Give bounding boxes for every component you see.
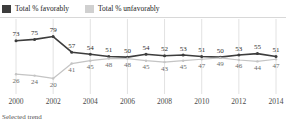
x-tick-label-2004: 2004 — [83, 97, 98, 106]
data-label: 43 — [161, 65, 169, 73]
data-point — [145, 53, 148, 56]
data-point — [71, 62, 73, 64]
x-axis: 20002002200420062008201020122014 — [0, 94, 286, 112]
data-label: 57 — [68, 42, 76, 50]
data-label: 75 — [31, 29, 39, 37]
data-point — [237, 54, 240, 57]
data-point — [15, 39, 18, 42]
data-point — [145, 59, 147, 61]
data-point — [126, 57, 128, 59]
data-label: 47 — [273, 62, 281, 70]
legend-item-unfavorable: Total % unfavorably — [85, 5, 160, 13]
footer-note: Selected trend — [2, 113, 42, 121]
data-point — [256, 60, 258, 62]
legend-label-unfavorable: Total % unfavorably — [98, 5, 160, 13]
data-label: 45 — [180, 63, 188, 71]
data-label: 47 — [198, 62, 206, 70]
data-point — [89, 59, 91, 61]
data-label: 79 — [50, 26, 58, 34]
x-tick-label-2008: 2008 — [157, 97, 172, 106]
data-point — [108, 57, 110, 59]
data-label: 53 — [180, 45, 188, 53]
data-point — [182, 59, 184, 61]
data-point — [163, 54, 166, 57]
data-label: 52 — [161, 45, 169, 53]
data-point — [33, 74, 35, 76]
data-point — [238, 59, 240, 61]
square-swatch-icon — [2, 5, 11, 13]
data-label: 20 — [50, 81, 58, 89]
x-tick-label-2000: 2000 — [9, 97, 24, 106]
data-point — [200, 55, 203, 58]
data-point — [182, 54, 185, 57]
data-label: 45 — [87, 63, 95, 71]
data-label: 26 — [13, 77, 21, 85]
data-label: 41 — [68, 66, 76, 74]
data-point — [201, 58, 203, 60]
plot-area: 7375795754515054525351505355512624204145… — [0, 19, 286, 94]
data-label: 50 — [217, 47, 225, 55]
favorability-trend-chart: Total % favorably Total % unfavorably 73… — [0, 0, 286, 129]
x-tick-label-2010: 2010 — [194, 97, 209, 106]
data-label: 46 — [235, 62, 243, 70]
data-point — [70, 51, 73, 54]
x-tick-label-2002: 2002 — [46, 97, 61, 106]
data-label: 24 — [31, 78, 39, 86]
data-label: 51 — [198, 46, 206, 54]
data-label: 54 — [143, 44, 151, 52]
data-label: 48 — [105, 61, 113, 69]
data-point — [275, 55, 278, 58]
data-label: 54 — [87, 44, 95, 52]
data-label: 73 — [13, 30, 21, 38]
x-tick-label-2012: 2012 — [231, 97, 246, 106]
data-label: 50 — [124, 47, 132, 55]
x-tick-label-2014: 2014 — [269, 97, 284, 106]
data-label: 53 — [235, 45, 243, 53]
data-point — [89, 53, 92, 56]
data-label: 51 — [105, 46, 113, 54]
data-point — [275, 58, 277, 60]
data-label: 51 — [273, 46, 281, 54]
data-point — [163, 61, 165, 63]
data-point — [52, 77, 54, 79]
data-point — [33, 38, 36, 41]
legend-divider — [0, 17, 286, 18]
legend-item-favorable: Total % favorably — [2, 5, 69, 13]
line-chart-svg: 7375795754515054525351505355512624204145… — [0, 19, 286, 94]
data-label: 49 — [217, 60, 225, 68]
data-point — [15, 73, 17, 75]
legend-label-favorable: Total % favorably — [15, 5, 69, 13]
data-label: 45 — [143, 63, 151, 71]
data-point — [256, 52, 259, 55]
chart-legend: Total % favorably Total % unfavorably — [0, 0, 286, 18]
data-point — [52, 35, 55, 38]
data-point — [219, 57, 221, 59]
data-label: 44 — [254, 64, 262, 72]
square-swatch-icon — [85, 5, 94, 13]
data-series-group — [15, 35, 278, 80]
x-tick-label-2006: 2006 — [120, 97, 135, 106]
data-label: 48 — [124, 61, 132, 69]
data-label: 55 — [254, 43, 262, 51]
